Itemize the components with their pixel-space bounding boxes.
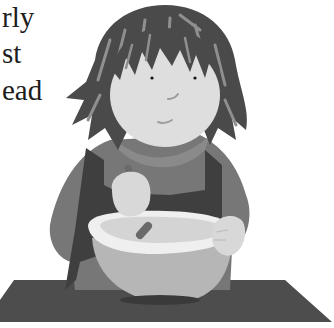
child-baking-illustration [0, 0, 334, 328]
story-text-line-1: rly [2, 0, 34, 35]
story-text-line-2: st [2, 36, 21, 71]
right-eye [193, 76, 196, 79]
story-text-line-3: ead [2, 73, 42, 108]
bowl-foot [120, 295, 200, 305]
left-eye [150, 76, 153, 79]
right-hand [212, 216, 245, 256]
book-page: rly st ead [0, 0, 334, 328]
left-hand [112, 172, 151, 217]
